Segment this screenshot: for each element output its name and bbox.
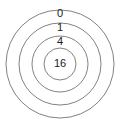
ring-inner-label: 16 — [54, 57, 66, 69]
ring-second-label: 1 — [57, 21, 63, 33]
concentric-circles-diagram: 0 1 4 16 — [0, 0, 121, 129]
target-diagram-svg: 0 1 4 16 — [0, 0, 121, 129]
ring-outer-label: 0 — [57, 7, 63, 19]
ring-third-label: 4 — [57, 35, 63, 47]
